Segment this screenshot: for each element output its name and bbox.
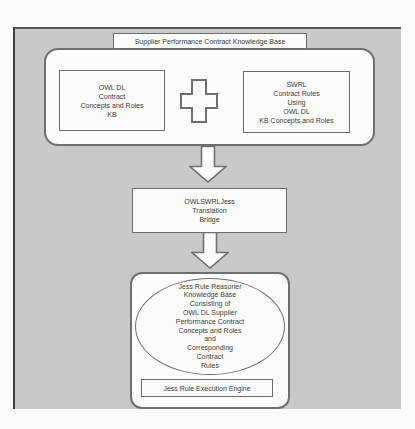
engine-label: Jess Rule Execution Engine bbox=[163, 384, 250, 393]
execution-engine-box: Jess Rule Execution Engine bbox=[141, 379, 273, 397]
arrow-down-icon-2 bbox=[191, 232, 229, 269]
bridge-box-line: Translation bbox=[192, 206, 226, 215]
arrow-down-icon-1 bbox=[189, 146, 227, 183]
diagram-title: Supplier Performance Contract Knowledge … bbox=[135, 37, 286, 46]
bridge-box-line: OWLSWRLJess bbox=[184, 197, 235, 206]
diagram-title-box: Supplier Performance Contract Knowledge … bbox=[113, 33, 307, 49]
ellipse-line: and bbox=[204, 335, 216, 344]
ellipse-line: Corresponding bbox=[187, 344, 233, 353]
ellipse-line: Performance Contract bbox=[176, 318, 244, 327]
owl-dl-kb-box: OWL DL Contract Concepts and Roles KB bbox=[59, 70, 165, 131]
reasoner-ellipse: Jess Rule Reasoner Knowledge Base Consis… bbox=[135, 278, 285, 375]
ellipse-line: Concepts and Roles bbox=[178, 327, 241, 336]
bridge-box-line: Bridge bbox=[199, 215, 219, 224]
owl-box-line: Contract bbox=[99, 92, 125, 101]
ellipse-line: Knowledge Base bbox=[184, 291, 237, 300]
plus-icon bbox=[180, 79, 218, 123]
ellipse-line: Contract bbox=[197, 353, 223, 362]
ellipse-line: OWL DL Supplier bbox=[183, 309, 237, 318]
swrl-box-line: Using bbox=[288, 98, 306, 107]
owl-box-line: KB bbox=[107, 110, 116, 119]
ellipse-line: Jess Rule Reasoner bbox=[178, 283, 241, 292]
swrl-box-line: KB Concepts and Roles bbox=[259, 116, 333, 125]
swrl-box-line: OWL DL bbox=[283, 107, 310, 116]
ellipse-line: Rules bbox=[201, 362, 219, 371]
swrl-box-line: SWRL bbox=[286, 80, 306, 89]
owl-box-line: OWL DL bbox=[99, 83, 126, 92]
ellipse-line: Consisting of bbox=[190, 300, 230, 309]
swrl-box-line: Contract Rules bbox=[273, 89, 319, 98]
translation-bridge-box: OWLSWRLJess Translation Bridge bbox=[132, 188, 287, 233]
owl-box-line: Concepts and Roles bbox=[80, 101, 143, 110]
swrl-rules-box: SWRL Contract Rules Using OWL DL KB Conc… bbox=[243, 71, 350, 133]
